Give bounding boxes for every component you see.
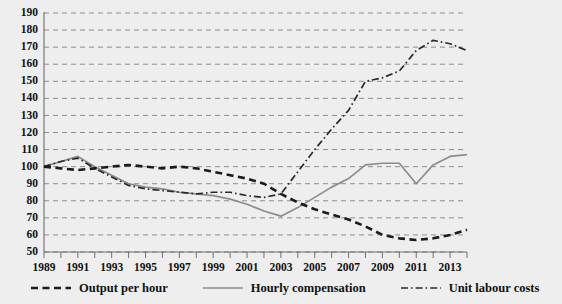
x-tick-label: 1991 [66, 261, 89, 272]
x-tick-label: 1995 [134, 261, 157, 272]
x-axis-tick-labels: 1989199119931995199719992001200320052007… [33, 261, 462, 272]
legend-label-hourly-compensation: Hourly compensation [251, 281, 366, 296]
series-line-hourly-compensation [44, 155, 467, 216]
series-lines-group [44, 40, 467, 240]
legend-label-unit-labour-costs: Unit labour costs [449, 281, 540, 296]
plot-area: 5060708090100110120130140150160170180190… [0, 0, 562, 272]
x-tick-label: 2001 [236, 261, 259, 272]
x-tick-label: 2009 [371, 261, 394, 272]
x-axis-ticks [44, 252, 467, 258]
y-tick-label: 90 [27, 177, 39, 189]
y-tick-label: 80 [27, 194, 39, 206]
x-tick-label: 2003 [269, 261, 292, 272]
y-tick-label: 50 [27, 245, 39, 257]
y-tick-label: 170 [21, 40, 39, 52]
series-line-output-per-hour [44, 165, 467, 240]
legend-item-hourly-compensation: Hourly compensation [202, 281, 366, 296]
y-tick-label: 190 [21, 6, 39, 18]
y-tick-label: 100 [21, 160, 39, 172]
chart-legend: Output per hour Hourly compensation Unit… [0, 272, 562, 304]
x-tick-label: 1997 [168, 261, 191, 272]
y-tick-label: 140 [21, 91, 39, 103]
y-tick-label: 60 [27, 228, 39, 240]
legend-item-output-per-hour: Output per hour [30, 281, 168, 296]
y-tick-label: 150 [21, 74, 39, 86]
dash-dot-line-icon [400, 282, 442, 294]
x-tick-label: 1993 [100, 261, 123, 272]
x-tick-label: 2013 [439, 261, 462, 272]
y-tick-label: 180 [21, 23, 39, 35]
y-axis-tick-labels: 5060708090100110120130140150160170180190 [21, 6, 39, 257]
solid-line-icon [202, 282, 244, 294]
y-tick-label: 120 [21, 126, 39, 138]
y-tick-label: 130 [21, 109, 39, 121]
y-tick-label: 110 [21, 143, 38, 155]
x-tick-label: 2005 [303, 261, 326, 272]
y-tick-label: 70 [27, 211, 39, 223]
chart-container: 5060708090100110120130140150160170180190… [0, 0, 562, 304]
gridlines-group [44, 13, 467, 252]
legend-item-unit-labour-costs: Unit labour costs [400, 281, 540, 296]
legend-label-output-per-hour: Output per hour [79, 281, 168, 296]
x-tick-label: 2007 [337, 261, 360, 272]
x-tick-label: 2011 [405, 261, 428, 272]
chart-svg: 5060708090100110120130140150160170180190… [0, 0, 562, 272]
dashed-line-icon [30, 282, 72, 294]
x-tick-label: 1999 [202, 261, 225, 272]
x-tick-label: 1989 [33, 261, 56, 272]
y-tick-label: 160 [21, 57, 39, 69]
